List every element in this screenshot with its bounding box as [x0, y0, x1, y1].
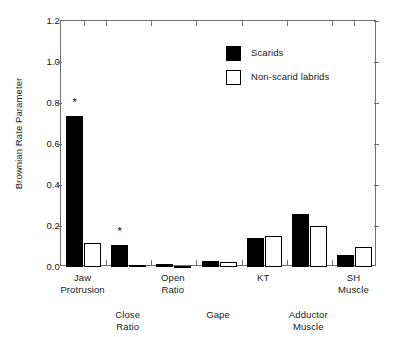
y-axis-tick-mark: [57, 144, 62, 145]
x-axis-label-kt: KT: [257, 272, 269, 284]
x-axis-label-line: Muscle: [338, 284, 369, 296]
y-axis-tick-label: 0.4: [26, 179, 60, 190]
group-separator-tick-bottom: [287, 260, 288, 266]
group-separator-tick-bottom: [332, 260, 333, 266]
x-axis-label-line: Jaw: [60, 272, 104, 284]
bar-scarids-jaw-protrusion: [66, 116, 83, 267]
bar-non-scarid-labrids-sh-muscle: [355, 247, 372, 267]
y-axis-tick-label: 0.0: [26, 261, 60, 272]
bar-non-scarid-labrids-open-ratio: [174, 266, 191, 268]
y-axis-tick-mark: [57, 185, 62, 186]
x-axis-label-line: Muscle: [289, 321, 328, 333]
group-separator-tick-top: [84, 20, 85, 26]
y-axis-tick-mark: [57, 62, 62, 63]
y-axis-tick-mark: [57, 103, 62, 104]
group-separator-tick-top: [287, 20, 288, 26]
group-separator-tick-top: [106, 20, 107, 26]
group-separator-tick-top: [151, 20, 152, 26]
group-separator-tick-bottom: [151, 260, 152, 266]
bar-scarids-close-ratio: [111, 245, 128, 267]
y-axis-tick-mark-right: [374, 185, 379, 186]
legend-label: Non-scarid labrids: [251, 71, 329, 82]
bar-scarids-kt: [247, 238, 264, 267]
y-axis-tick-mark-right: [374, 21, 379, 22]
y-axis-label: Brownian Rate Parameter: [13, 34, 24, 234]
x-axis-label-sh-muscle: SHMuscle: [338, 272, 369, 296]
y-axis-tick-mark-right: [374, 62, 379, 63]
x-axis-label-gape: Gape: [206, 309, 230, 321]
legend-label: Scarids: [251, 47, 283, 58]
y-axis-tick-mark-right: [374, 103, 379, 104]
significance-asterisk: *: [72, 97, 76, 108]
x-axis-label-close-ratio: CloseRatio: [115, 309, 140, 333]
y-axis-tick-label: 1.2: [26, 15, 60, 26]
x-axis-label-line: Adductor: [289, 309, 328, 321]
x-axis-label-jaw-protrusion: JawProtrusion: [60, 272, 104, 296]
group-separator-tick-bottom: [106, 260, 107, 266]
y-axis-tick-label: 0.2: [26, 220, 60, 231]
group-separator-tick-top: [332, 20, 333, 26]
y-axis-tick-mark: [57, 226, 62, 227]
x-axis-label-line: Ratio: [115, 321, 140, 333]
legend-swatch-icon: [226, 46, 241, 61]
group-separator-tick-top: [242, 20, 243, 26]
y-axis-tick-label: 0.6: [26, 138, 60, 149]
x-axis-label-adductor-muscle: AdductorMuscle: [289, 309, 328, 333]
y-axis-tick-label: 0.8: [26, 97, 60, 108]
group-separator-tick-top: [354, 20, 355, 26]
x-axis-label-line: Gape: [206, 309, 230, 321]
legend-swatch-icon: [226, 70, 241, 85]
y-axis-tick-mark-right: [374, 226, 379, 227]
bar-scarids-open-ratio: [156, 264, 173, 267]
group-separator-tick-bottom: [196, 260, 197, 266]
y-axis-tick-mark-right: [374, 144, 379, 145]
bar-non-scarid-labrids-gape: [220, 262, 237, 267]
x-axis-label-line: Ratio: [161, 284, 185, 296]
bar-non-scarid-labrids-close-ratio: [129, 265, 146, 267]
chart-figure: Brownian Rate Parameter 0.00.20.40.60.81…: [0, 0, 396, 337]
group-separator-tick-top: [196, 20, 197, 26]
x-axis-label-line: KT: [257, 272, 269, 284]
x-axis-label-line: SH: [338, 272, 369, 284]
group-separator-tick-bottom: [242, 260, 243, 266]
plot-area: **: [60, 20, 376, 266]
x-axis-label-line: Protrusion: [60, 284, 104, 296]
bar-non-scarid-labrids-jaw-protrusion: [84, 243, 101, 267]
bar-non-scarid-labrids-kt: [265, 236, 282, 267]
plot-inner: **: [61, 21, 375, 265]
x-axis-label-open-ratio: OpenRatio: [161, 272, 185, 296]
x-axis-label-line: Open: [161, 272, 185, 284]
y-axis-tick-label: 1.0: [26, 56, 60, 67]
bar-scarids-adductor-muscle: [292, 214, 309, 267]
bar-non-scarid-labrids-adductor-muscle: [310, 226, 327, 267]
bar-scarids-gape: [202, 261, 219, 267]
x-axis-label-line: Close: [115, 309, 140, 321]
bar-scarids-sh-muscle: [337, 255, 354, 267]
significance-asterisk: *: [118, 226, 122, 237]
